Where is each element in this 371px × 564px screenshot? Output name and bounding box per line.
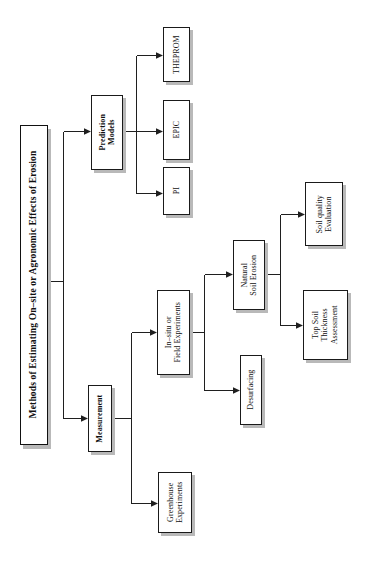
node-measurement-label: Measurement [95, 394, 104, 442]
node-insitu-field-experiments[interactable]: In–situ or Field Experiments [157, 290, 190, 375]
arrow-topsoil [296, 322, 303, 328]
node-top-soil-thickness-assessment-label: Top Soil Thickness Assessment [312, 306, 340, 345]
node-natural-soil-erosion[interactable]: Natural Soil Erosion [233, 240, 265, 310]
node-insitu-field-experiments-label: In–situ or Field Experiments [164, 302, 183, 363]
node-theprom[interactable]: THEPROM [163, 27, 190, 82]
arrow-greenhouse [151, 500, 158, 506]
node-root-label: Methods of Estimating On–site or Agronom… [29, 151, 40, 419]
node-theprom-label: THEPROM [172, 35, 181, 74]
node-pi[interactable]: PI [163, 167, 190, 215]
node-soil-quality-evaluation-label: Soil quality Evaluation [315, 195, 334, 233]
arrow-natural [226, 271, 233, 277]
arrow-prediction [84, 128, 91, 134]
node-soil-quality-evaluation[interactable]: Soil quality Evaluation [305, 182, 343, 246]
node-natural-soil-erosion-label: Natural Soil Erosion [240, 255, 259, 296]
node-root[interactable]: Methods of Estimating On–site or Agronom… [20, 125, 48, 445]
arrow-theprom [156, 52, 163, 58]
node-greenhouse-experiments-label: Greenhouse Experiments [166, 482, 185, 524]
arrow-epic [156, 128, 163, 134]
node-greenhouse-experiments[interactable]: Greenhouse Experiments [158, 472, 192, 533]
node-top-soil-thickness-assessment[interactable]: Top Soil Thickness Assessment [303, 290, 348, 360]
arrow-measurement [81, 415, 88, 421]
arrow-desurfacing [233, 387, 240, 393]
node-epic[interactable]: EPIC [163, 100, 190, 160]
node-epic-label: EPIC [172, 121, 181, 139]
node-measurement[interactable]: Measurement [88, 385, 112, 452]
node-prediction-models[interactable]: Prediction Models [91, 95, 123, 170]
flowchart-canvas: Methods of Estimating On–site or Agronom… [0, 0, 371, 564]
node-desurfacing[interactable]: Desurfacing [240, 355, 262, 425]
arrow-pi [156, 190, 163, 196]
arrow-soilquality [298, 211, 305, 217]
arrow-insitu [150, 329, 157, 335]
node-prediction-models-label: Prediction Models [98, 114, 117, 150]
node-desurfacing-label: Desurfacing [246, 370, 255, 410]
node-pi-label: PI [172, 187, 181, 194]
